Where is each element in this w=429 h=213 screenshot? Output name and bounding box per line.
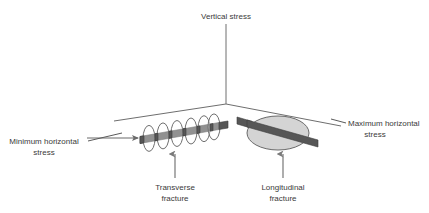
maximum-horizontal-stress-label-line2: stress (364, 130, 385, 139)
transverse-fracture-group (140, 114, 228, 151)
transverse-fracture-label-line2: fracture (161, 194, 189, 203)
maximum-horizontal-stress-label-line1: Maximum horizontal (348, 119, 420, 128)
longitudinal-fracture-label-line1: Longitudinal (261, 183, 304, 192)
fracture-disc (157, 123, 169, 149)
figure-canvas: Vertical stress Minimum horizontal stres… (0, 0, 429, 213)
minimum-horizontal-stress-label-line1: Minimum horizontal (9, 137, 79, 146)
stress-orientation-diagram: Vertical stress Minimum horizontal stres… (0, 0, 429, 213)
diagram-labels: Vertical stress Minimum horizontal stres… (9, 12, 419, 203)
fracture-disc (171, 121, 183, 147)
minimum-stress-leader-line (88, 133, 122, 141)
fracture-disc (143, 125, 155, 151)
longitudinal-fracture-label-line2: fracture (269, 194, 297, 203)
minimum-horizontal-stress-label-line2: stress (33, 148, 54, 157)
transverse-fracture-label-line1: Transverse (155, 183, 195, 192)
vertical-stress-label: Vertical stress (201, 12, 251, 21)
longitudinal-fracture-group (237, 116, 318, 150)
stress-axes (114, 24, 341, 126)
transverse-fracture-discs (143, 114, 220, 151)
maximum-stress-leader-line (331, 119, 346, 123)
fracture-disc (185, 118, 197, 144)
